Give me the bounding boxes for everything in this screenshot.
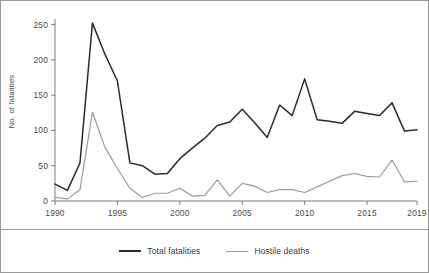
x-tick-label: 2019 xyxy=(407,208,427,218)
legend-item-total-fatalities: Total fatalities xyxy=(119,246,200,256)
x-tick-label: 1990 xyxy=(45,208,65,218)
chart-legend: Total fatalities Hostile deaths xyxy=(1,230,428,272)
y-tick-label: 200 xyxy=(33,55,48,65)
legend-line-icon-hostile-deaths xyxy=(226,251,248,252)
chart-figure: No. of fatalities 0501001502002501990199… xyxy=(0,0,429,273)
x-tick-label: 2005 xyxy=(233,208,253,218)
x-tick-label: 2010 xyxy=(295,208,315,218)
y-tick-label: 150 xyxy=(33,90,48,100)
legend-label-hostile-deaths: Hostile deaths xyxy=(254,246,309,256)
series-line-total-fatalities xyxy=(55,23,417,190)
y-tick-label: 250 xyxy=(33,20,48,30)
series-line-hostile-deaths xyxy=(55,112,417,199)
y-tick-label: 100 xyxy=(33,125,48,135)
y-tick-label: 0 xyxy=(43,196,48,206)
legend-line-icon-total-fatalities xyxy=(119,250,141,252)
y-tick-label: 50 xyxy=(38,161,48,171)
legend-label-total-fatalities: Total fatalities xyxy=(147,246,200,256)
legend-item-hostile-deaths: Hostile deaths xyxy=(226,246,309,256)
x-tick-label: 2000 xyxy=(170,208,190,218)
line-chart-svg: 0501001502002501990199520002005201020152… xyxy=(1,1,429,230)
plot-panel: No. of fatalities 0501001502002501990199… xyxy=(1,1,428,230)
x-tick-label: 1995 xyxy=(108,208,128,218)
x-tick-label: 2015 xyxy=(357,208,377,218)
